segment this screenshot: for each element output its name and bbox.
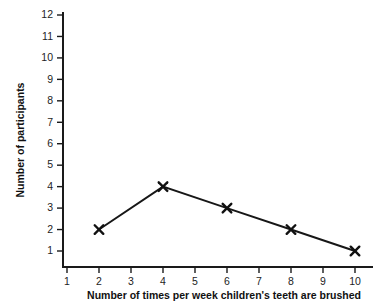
- y-tick-label-11: 11: [42, 30, 53, 42]
- x-axis-tick-labels: 12345678910: [64, 275, 361, 287]
- x-tick-label-5: 5: [192, 275, 198, 287]
- y-axis-tick-labels: 123456789101112: [41, 8, 53, 256]
- y-tick-label-9: 9: [47, 73, 53, 85]
- data-line-series: [99, 187, 355, 251]
- y-tick-label-2: 2: [47, 223, 53, 235]
- data-point-markers: [95, 182, 360, 255]
- y-tick-label-5: 5: [47, 158, 53, 170]
- x-tick-label-3: 3: [128, 275, 134, 287]
- chart-canvas: 123456789101112 12345678910 Number of ti…: [0, 0, 384, 308]
- y-tick-label-6: 6: [47, 137, 53, 149]
- y-tick-label-12: 12: [41, 8, 53, 20]
- y-tick-label-10: 10: [41, 51, 53, 63]
- y-tick-label-3: 3: [47, 201, 53, 213]
- y-tick-label-7: 7: [47, 116, 53, 128]
- x-tick-label-4: 4: [160, 275, 166, 287]
- data-point-marker: [95, 225, 104, 234]
- x-tick-label-10: 10: [349, 275, 361, 287]
- line-chart: 123456789101112 12345678910 Number of ti…: [0, 0, 384, 308]
- x-axis-title: Number of times per week children's teet…: [87, 289, 361, 301]
- x-tick-label-7: 7: [256, 275, 262, 287]
- y-axis-title: Number of participants: [14, 82, 26, 197]
- y-tick-label-8: 8: [47, 94, 53, 106]
- x-tick-label-2: 2: [96, 275, 102, 287]
- data-point-marker: [351, 247, 360, 256]
- y-tick-label-1: 1: [47, 244, 53, 256]
- x-tick-label-1: 1: [64, 275, 70, 287]
- x-tick-label-9: 9: [320, 275, 326, 287]
- x-tick-label-8: 8: [288, 275, 294, 287]
- x-tick-label-6: 6: [224, 275, 230, 287]
- y-tick-label-4: 4: [47, 180, 53, 192]
